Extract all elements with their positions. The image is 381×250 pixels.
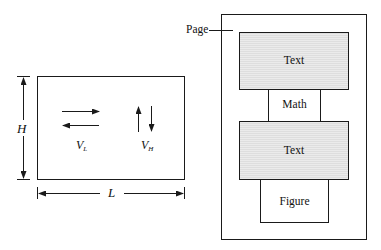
diagram-canvas: H L VL VH Page Text Math Text Figure [0, 0, 381, 250]
text-block-1-label: Text [239, 55, 349, 67]
page-label: Page [186, 24, 208, 36]
diagram-graphics [0, 0, 381, 250]
channel-rectangle [38, 77, 185, 180]
math-block-label: Math [268, 99, 321, 111]
vertical-velocity-arrows [139, 106, 152, 132]
length-label: L [108, 186, 115, 199]
text-block-2-label: Text [239, 145, 349, 157]
figure-block-label: Figure [260, 196, 329, 208]
vertical-velocity-label: VH [141, 139, 153, 153]
horizontal-velocity-arrows [62, 112, 99, 126]
velocity-subscript: H [148, 145, 153, 153]
height-label: H [17, 121, 26, 136]
velocity-subscript: L [83, 145, 87, 153]
horizontal-velocity-label: VL [76, 139, 87, 153]
